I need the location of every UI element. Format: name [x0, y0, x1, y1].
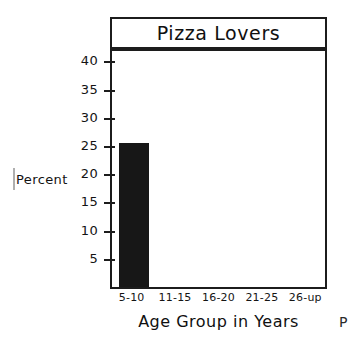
scan-artifact-glyph: P — [339, 314, 349, 330]
y-tick-mark — [104, 202, 115, 204]
y-tick-mark — [104, 146, 115, 148]
bars-layer — [112, 51, 325, 287]
y-tick-label: 15 — [81, 194, 98, 210]
bar-slot — [114, 51, 154, 287]
bar-slot — [244, 51, 284, 287]
y-tick-label: 25 — [81, 138, 98, 154]
y-axis-label: Percent — [16, 172, 68, 188]
y-tick-mark — [104, 118, 115, 120]
y-tick-mark — [104, 90, 115, 92]
x-tick-label-26-up: 26-up — [283, 291, 327, 305]
x-axis-ticks: 5-1011-1516-2021-2526-up — [110, 291, 327, 307]
y-tick-mark — [104, 231, 115, 233]
y-tick-label: 5 — [89, 251, 98, 267]
bar-slot — [201, 51, 241, 287]
y-tick-mark — [104, 259, 115, 261]
scan-artifact-mark — [13, 168, 15, 190]
chart-title-box: Pizza Lovers — [110, 17, 327, 49]
y-tick-label: 30 — [81, 110, 98, 126]
bar-slot — [157, 51, 197, 287]
y-tick-label: 40 — [81, 53, 98, 69]
bar-slot — [287, 51, 327, 287]
y-tick-mark — [104, 61, 115, 63]
x-tick-label-21-25: 21-25 — [240, 291, 284, 305]
x-tick-label-11-15: 11-15 — [153, 291, 197, 305]
chart-title: Pizza Lovers — [157, 23, 281, 43]
y-tick-label: 35 — [81, 82, 98, 98]
bar-chart: Pizza Lovers Percent 510152025303540 5-1… — [0, 0, 349, 339]
y-tick-label: 20 — [81, 166, 98, 182]
plot-inner — [112, 51, 325, 287]
x-tick-label-5-10: 5-10 — [110, 291, 154, 305]
bar-5-10 — [119, 143, 149, 287]
x-axis-label: Age Group in Years — [110, 312, 327, 332]
y-tick-mark — [104, 174, 115, 176]
x-tick-label-16-20: 16-20 — [197, 291, 241, 305]
plot-area — [110, 49, 327, 289]
y-tick-label: 10 — [81, 223, 98, 239]
